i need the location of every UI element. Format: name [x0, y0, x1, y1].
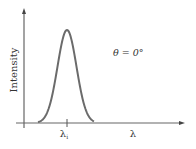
x-axis-label: λ [130, 128, 137, 139]
angle-annotation: θ = 0° [113, 47, 144, 58]
chart: Intensity λi λ θ = 0° [0, 0, 196, 149]
y-axis-label: Intensity [8, 47, 19, 92]
x-tick-label: λi [60, 128, 68, 140]
x-axis-arrow-icon [179, 121, 185, 125]
intensity-curve [38, 30, 94, 122]
y-axis-arrow-icon [22, 8, 26, 14]
